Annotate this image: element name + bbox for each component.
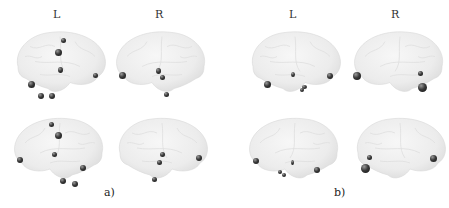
brain-left-medial [245,112,345,184]
brain-node [282,173,286,177]
panel-caption-a: a) [104,186,115,199]
brain-node [264,81,271,88]
brain-node [160,75,165,80]
brain-node [119,72,126,79]
brain-node [17,157,23,163]
brain-node [58,67,63,73]
brain-node [49,93,55,99]
brain-left-lateral [10,24,110,99]
brain-node [55,49,62,56]
brain-node [196,155,202,161]
brain-node [52,152,57,157]
brain-node [164,92,169,97]
brain-node [418,71,423,76]
brain-node [157,160,162,165]
brain-node [327,73,333,79]
brain-left-medial [10,112,110,184]
brain-node [291,160,294,165]
brain-node [93,73,98,78]
hemisphere-label-right: R [155,8,163,21]
brain-node [72,181,78,187]
brain-right-medial [350,112,449,184]
brain-right-lateral [112,24,212,99]
brain-node [253,158,259,164]
brain-node [61,38,66,43]
brain-node [38,93,44,99]
brain-node [353,72,361,80]
brain-node [367,155,372,160]
brain-node [28,81,35,88]
brain-node [152,177,157,182]
brain-node [156,68,161,74]
brain-node [160,152,165,157]
hemisphere-label-right: R [391,8,399,21]
brain-node [60,178,66,184]
brain-left-lateral [245,24,345,99]
brain-node [314,167,320,173]
brain-node [430,155,437,162]
brain-node [55,132,62,139]
brain-right-medial [112,112,212,184]
brain-node [300,88,304,92]
hemisphere-label-left: L [53,8,60,21]
panel-caption-b: b) [334,186,345,199]
brain-node [291,72,295,77]
brain-node [80,165,86,171]
brain-right-lateral [350,24,449,99]
brain-node [49,122,54,127]
hemisphere-label-left: L [289,8,296,21]
brain-node [361,164,370,173]
brain-node [418,83,427,92]
